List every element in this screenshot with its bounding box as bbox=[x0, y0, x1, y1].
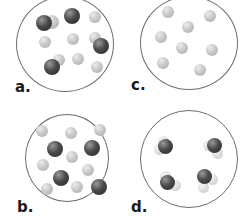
light-atom bbox=[89, 11, 101, 23]
light-atom bbox=[94, 124, 106, 136]
dark-atom bbox=[207, 138, 222, 153]
light-atom bbox=[36, 125, 48, 137]
dark-atom bbox=[64, 8, 80, 24]
light-atom bbox=[65, 127, 77, 139]
dark-atom bbox=[53, 170, 69, 186]
light-atom bbox=[182, 21, 194, 33]
panel-label-b: b. bbox=[17, 198, 33, 216]
container-circle-c bbox=[140, 0, 238, 90]
light-atom bbox=[176, 42, 188, 54]
light-atom bbox=[162, 6, 174, 18]
light-atom bbox=[66, 151, 78, 163]
dark-atom bbox=[93, 38, 109, 54]
panel-label-a: a. bbox=[15, 78, 31, 96]
light-atom bbox=[204, 10, 216, 22]
dark-atom bbox=[158, 139, 173, 154]
light-atom bbox=[41, 183, 53, 195]
light-atom bbox=[67, 33, 79, 45]
light-atom bbox=[155, 31, 167, 43]
light-atom bbox=[39, 36, 51, 48]
light-atom bbox=[72, 53, 84, 65]
container-circle-d bbox=[140, 110, 238, 208]
dark-atom bbox=[91, 179, 107, 195]
light-atom bbox=[206, 44, 218, 56]
dark-atom bbox=[36, 15, 52, 31]
light-atom bbox=[37, 159, 49, 171]
light-atom bbox=[157, 57, 169, 69]
dark-atom bbox=[160, 175, 175, 190]
panel-label-d: d. bbox=[131, 198, 147, 216]
dark-atom bbox=[84, 140, 100, 156]
light-atom bbox=[194, 64, 206, 76]
light-atom bbox=[91, 61, 103, 73]
light-atom bbox=[82, 164, 94, 176]
light-atom bbox=[71, 181, 83, 193]
panel-label-c: c. bbox=[131, 76, 146, 94]
dark-atom bbox=[44, 59, 60, 75]
dark-atom bbox=[197, 169, 212, 184]
dark-atom bbox=[47, 141, 63, 157]
